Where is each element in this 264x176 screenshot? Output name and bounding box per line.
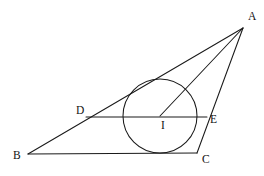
geometry-figure: A B C D E I: [0, 0, 264, 176]
segment-bc: [28, 153, 197, 154]
label-point-e: E: [210, 113, 217, 125]
segment-ab: [28, 28, 243, 154]
geometry-canvas: A B C D E I: [0, 0, 264, 176]
label-point-d: D: [76, 104, 84, 116]
label-point-c: C: [202, 153, 210, 165]
label-point-b: B: [13, 149, 21, 161]
segment-ac: [197, 28, 243, 153]
label-point-a: A: [248, 10, 257, 22]
segment-ai: [160, 28, 243, 116]
label-point-i: I: [161, 119, 165, 131]
